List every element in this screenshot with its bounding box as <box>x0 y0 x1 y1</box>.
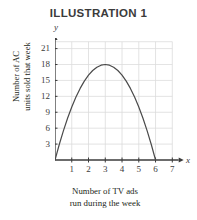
y-tick-label: 6 <box>36 124 50 133</box>
x-tick-label: 3 <box>100 165 110 174</box>
y-axis-title-line-2: units sold that week <box>21 21 32 133</box>
x-tick-label: 6 <box>151 165 161 174</box>
x-axis-title-line-2: run during the week <box>30 198 180 210</box>
grid-lines <box>55 42 172 160</box>
y-axis-title: Number of AC units sold that week <box>11 21 32 133</box>
y-axis-arrowhead <box>55 38 58 40</box>
y-tick-label: 15 <box>36 76 50 85</box>
y-tick-label: 3 <box>36 140 50 149</box>
y-axis-title-line-1: Number of AC <box>11 21 22 133</box>
x-axis-arrowhead <box>179 157 184 162</box>
x-tick-label: 5 <box>134 165 144 174</box>
x-tick-label: 7 <box>167 165 177 174</box>
x-axis-title-line-1: Number of TV ads <box>30 186 180 198</box>
y-axis-letter: y <box>54 22 58 32</box>
x-tick-label: 4 <box>117 165 127 174</box>
y-tick-label: 9 <box>36 108 50 117</box>
illustration-figure: ILLUSTRATION 1 y x 36912151821 1234567 N… <box>0 0 197 220</box>
chart-title: ILLUSTRATION 1 <box>0 7 197 19</box>
plot-area <box>55 38 179 160</box>
x-tick-label: 1 <box>67 165 77 174</box>
x-tick-label: 2 <box>84 165 94 174</box>
y-tick-label: 21 <box>36 44 50 53</box>
x-axis-title: Number of TV ads run during the week <box>30 186 180 209</box>
parabola-plot <box>55 38 187 166</box>
y-tick-label: 12 <box>36 92 50 101</box>
y-tick-label: 18 <box>36 60 50 69</box>
